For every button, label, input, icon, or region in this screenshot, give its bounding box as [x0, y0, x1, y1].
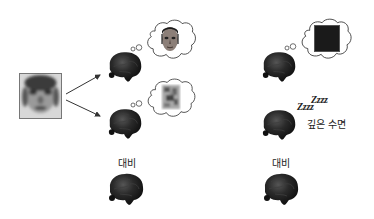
diagram-canvas: 대비 Zzzz Zzzz 깊은 수면 대비	[0, 0, 374, 219]
contrast-label-right: 대비	[272, 155, 290, 170]
brain-icon	[260, 50, 298, 83]
deep-sleep-label: 깊은 수면	[307, 116, 346, 131]
brain-icon	[106, 172, 146, 206]
brain-icon	[106, 107, 144, 140]
contrast-label-left: 대비	[118, 155, 136, 170]
arrow-to-brain-noise-icon	[66, 100, 100, 116]
brain-icon	[260, 108, 298, 141]
brain-icon	[261, 172, 301, 206]
face-image	[161, 26, 179, 53]
arrow-to-brain-face-icon	[66, 75, 100, 94]
sleep-zzz-2: Zzzz	[297, 101, 314, 112]
noise-image	[161, 84, 181, 110]
black-square-image	[314, 25, 340, 52]
brain-icon	[106, 50, 144, 83]
